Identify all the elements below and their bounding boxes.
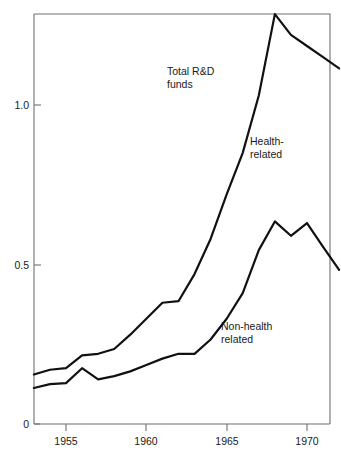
chart-container: 0 0.5 1.0 1955 1960 1965 1970 Total R&D …	[0, 0, 341, 452]
line-chart: 0 0.5 1.0 1955 1960 1965 1970 Total R&D …	[0, 0, 341, 452]
x-tick-label-1970: 1970	[295, 435, 319, 447]
annotation-total-rd-line1: Total R&D	[167, 65, 215, 77]
y-tick-label-0.5: 0.5	[14, 259, 29, 271]
annotation-health-related-line1: Health-	[250, 135, 284, 147]
y-tick-label-1.0: 1.0	[14, 99, 29, 111]
x-tick-label-1965: 1965	[215, 435, 239, 447]
annotation-health-related-line2: related	[250, 148, 282, 160]
annotation-non-health-related-line2: related	[221, 333, 253, 345]
annotation-non-health-related-line1: Non-health	[221, 320, 273, 332]
y-tick-label-0: 0	[23, 418, 29, 430]
x-tick-label-1955: 1955	[54, 435, 78, 447]
series-line-non-health-related	[34, 221, 339, 388]
annotation-total-rd-line2: funds	[167, 78, 193, 90]
x-tick-label-1960: 1960	[134, 435, 158, 447]
